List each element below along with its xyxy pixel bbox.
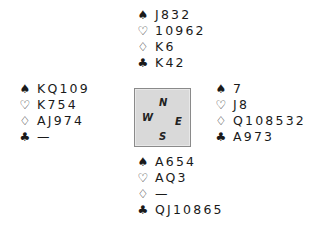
north-diamonds-row: ♢K6 <box>137 39 176 55</box>
west-clubs-row: ♣— <box>19 129 52 145</box>
east-diamonds-row: ♢Q108532 <box>215 113 306 129</box>
south-spades-row: ♠A654 <box>137 154 196 170</box>
west-spades-row: ♠KQ109 <box>19 81 90 97</box>
east-spades-row: ♠7 <box>215 81 243 97</box>
club-icon: ♣ <box>215 129 227 145</box>
south-spades: A654 <box>155 154 196 170</box>
heart-icon: ♡ <box>19 97 31 113</box>
compass-east-label: E <box>175 117 182 127</box>
north-clubs-row: ♣K42 <box>137 55 186 71</box>
heart-icon: ♡ <box>137 170 149 186</box>
spade-icon: ♠ <box>137 154 149 170</box>
south-diamonds-row: ♢— <box>137 186 170 202</box>
compass-south-label: S <box>159 132 166 142</box>
east-hearts: J8 <box>233 97 249 113</box>
west-diamonds-row: ♢AJ974 <box>19 113 84 129</box>
south-hearts: AQ3 <box>155 170 188 186</box>
east-clubs: A973 <box>233 129 274 145</box>
east-hearts-row: ♡J8 <box>215 97 249 113</box>
spade-icon: ♠ <box>215 81 227 97</box>
spade-icon: ♠ <box>19 81 31 97</box>
diamond-icon: ♢ <box>19 113 31 129</box>
east-diamonds: Q108532 <box>233 113 306 129</box>
east-spades: 7 <box>233 81 243 97</box>
south-diamonds: — <box>155 186 170 202</box>
diamond-icon: ♢ <box>137 39 149 55</box>
south-hearts-row: ♡AQ3 <box>137 170 188 186</box>
south-clubs-row: ♣QJ10865 <box>137 202 224 218</box>
compass-west-label: W <box>142 113 153 123</box>
heart-icon: ♡ <box>137 23 149 39</box>
north-diamonds: K6 <box>155 39 176 55</box>
north-hearts-row: ♡10962 <box>137 23 206 39</box>
west-spades: KQ109 <box>37 81 90 97</box>
west-hearts-row: ♡K754 <box>19 97 78 113</box>
north-clubs: K42 <box>155 55 186 71</box>
north-hearts: 10962 <box>155 23 206 39</box>
south-clubs: QJ10865 <box>155 202 224 218</box>
west-clubs: — <box>37 129 52 145</box>
spade-icon: ♠ <box>137 7 149 23</box>
north-spades-row: ♠J832 <box>137 7 191 23</box>
west-hearts: K754 <box>37 97 78 113</box>
compass-north-label: N <box>159 98 167 108</box>
north-spades: J832 <box>155 7 191 23</box>
east-clubs-row: ♣A973 <box>215 129 274 145</box>
west-diamonds: AJ974 <box>37 113 84 129</box>
compass-box: N W E S <box>134 88 191 147</box>
diamond-icon: ♢ <box>215 113 227 129</box>
club-icon: ♣ <box>19 129 31 145</box>
club-icon: ♣ <box>137 55 149 71</box>
heart-icon: ♡ <box>215 97 227 113</box>
diamond-icon: ♢ <box>137 186 149 202</box>
club-icon: ♣ <box>137 202 149 218</box>
